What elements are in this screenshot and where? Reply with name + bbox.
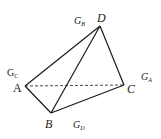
centroid-subscript: B	[81, 21, 85, 27]
centroid-label-G-D: GD	[73, 119, 85, 131]
centroid-label-G-B: GB	[74, 15, 85, 27]
edge-AC-hidden	[25, 85, 124, 86]
centroid-base: G	[74, 15, 81, 26]
centroid-subscript: A	[147, 77, 152, 83]
edge-BC	[51, 85, 124, 113]
vertex-label-C: C	[127, 82, 136, 96]
centroid-labels: GB GC GA GD	[7, 15, 152, 131]
edge-BD	[51, 26, 100, 113]
centroid-base: G	[7, 67, 14, 78]
vertex-label-B: B	[45, 117, 53, 131]
vertex-label-A: A	[13, 81, 22, 95]
edge-AB	[25, 86, 51, 113]
edge-AD	[25, 26, 100, 86]
centroid-subscript: D	[79, 125, 85, 131]
edges	[25, 26, 124, 113]
centroid-subscript: C	[14, 73, 18, 79]
vertex-label-D: D	[96, 11, 106, 25]
tetrahedron-diagram: A B C D GB GC GA GD	[0, 0, 161, 139]
centroid-label-G-C: GC	[7, 67, 18, 79]
centroid-base: G	[73, 119, 80, 130]
edge-CD	[100, 26, 124, 85]
centroid-base: G	[141, 71, 148, 82]
centroid-label-G-A: GA	[141, 71, 152, 83]
